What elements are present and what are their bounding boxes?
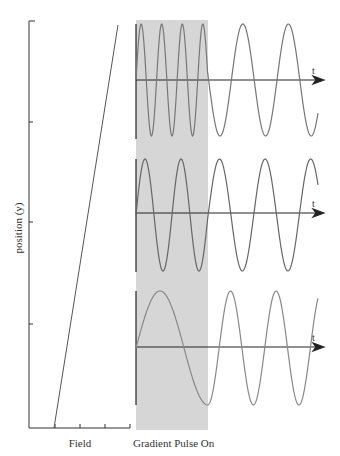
time-axis-label: t bbox=[312, 65, 315, 76]
field-line bbox=[54, 25, 118, 428]
time-axis-label: t bbox=[312, 198, 315, 209]
time-axis-label: t bbox=[312, 332, 315, 343]
pulse-label: Gradient Pulse On bbox=[133, 437, 215, 449]
precession-diagram: t t t position (y) Field Gradient Pulse … bbox=[0, 0, 340, 456]
y-axis-label: position (y) bbox=[12, 202, 25, 253]
field-plot bbox=[29, 21, 130, 428]
x-axis-label: Field bbox=[69, 437, 92, 449]
